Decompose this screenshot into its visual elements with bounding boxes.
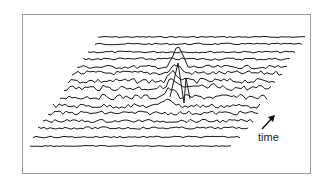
trace-line — [48, 111, 258, 115]
trace-line — [68, 70, 275, 83]
time-arrow-icon — [262, 115, 275, 129]
trace-line — [83, 58, 290, 60]
waterfall-plot — [0, 0, 326, 185]
time-axis-label: time — [258, 131, 279, 143]
trace-line — [98, 37, 305, 38]
trace-line — [88, 51, 295, 53]
trace-line — [95, 43, 302, 45]
traces — [30, 37, 305, 147]
peak-spike — [170, 63, 190, 103]
trace-line — [43, 119, 253, 122]
trace-line — [60, 88, 267, 100]
trace-line — [38, 127, 248, 129]
trace-line — [53, 99, 260, 108]
trace-line — [33, 136, 240, 138]
trace-line — [30, 146, 231, 147]
